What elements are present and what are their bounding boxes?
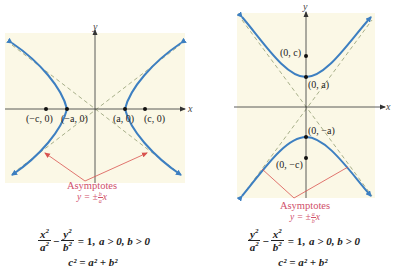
right-y-axis-label: y [303,2,307,12]
left-equation: x2a2 − y2b2 = 1, a > 0, b > 0 c² = a² + … [36,228,150,268]
term2: y2b2 [61,228,73,253]
left-y-axis-label: y [93,22,97,32]
left-x-axis-label: x [188,104,192,114]
point-a [123,107,127,111]
point-neg-c [44,107,48,111]
label-neg-c-0: (−c, 0) [26,114,53,124]
right-panel [234,12,385,198]
right-asymptotes-caption: Asymptotes y = ±abx [265,200,345,224]
asymptotes-title: Asymptotes [265,200,345,211]
exp: 2 [68,227,72,235]
exp: 2 [46,227,50,235]
asym-eq-suffix: x [103,192,107,202]
asymptote-equation: y = ±abx [265,211,345,224]
label-0-a: (0, a) [308,80,329,90]
term1: x2a2 [38,228,51,253]
minus-sign: − [262,235,268,247]
point-c [143,107,147,111]
minus-sign: − [53,235,59,247]
asym-eq-prefix: y = ± [77,192,98,202]
conditions: a > 0, b > 0 [309,235,360,247]
exp: 2 [46,240,50,248]
term1: y2a2 [248,228,260,253]
label-0-neg-c: (0, −c) [276,160,303,170]
label-0-neg-a: (0, −a) [308,126,335,136]
equals-one: = 1, [288,235,305,247]
asymptote-equation: y = ±bax [52,191,132,204]
label-a-0: (a, 0) [113,114,134,124]
exp: 2 [68,240,72,248]
point-0-neg-c [304,156,308,160]
right-x-axis-label: x [386,102,390,112]
asym-eq-suffix: x [316,212,320,222]
exp: 2 [278,240,282,248]
hyperbola-figure: y x (−c, 0) (−a, 0) (a, 0) (c, 0) Asympt… [0,0,394,277]
c-relation: c² = a² + b² [36,256,150,268]
left-asymptotes-caption: Asymptotes y = ±bax [52,180,132,204]
label-neg-a-0: (−a, 0) [61,114,88,124]
asymptotes-title: Asymptotes [52,180,132,191]
exp: 2 [278,227,282,235]
exp: 2 [255,240,259,248]
exp: 2 [255,227,259,235]
label-c-0: (c, 0) [144,114,165,124]
label-0-c: (0, c) [280,48,301,58]
equals-one: = 1, [78,235,95,247]
c-relation: c² = a² + b² [246,256,360,268]
point-0-c [304,54,308,58]
asym-eq-prefix: y = ± [290,212,311,222]
right-equation: y2a2 − x2b2 = 1, a > 0, b > 0 c² = a² + … [246,228,360,268]
term2: x2b2 [271,228,284,253]
left-panel [5,30,185,183]
point-neg-a [65,107,69,111]
conditions: a > 0, b > 0 [99,235,150,247]
